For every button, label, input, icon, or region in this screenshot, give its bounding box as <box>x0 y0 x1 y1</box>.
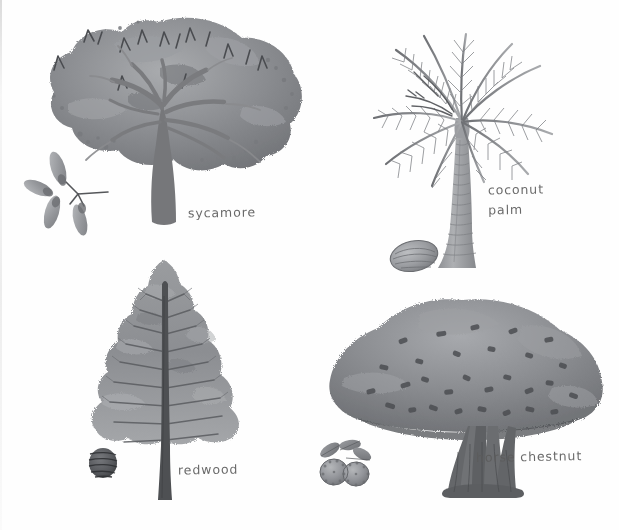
label-redwood: redwood <box>178 460 239 478</box>
conker-leaves <box>318 439 373 464</box>
specimen-coconut <box>385 232 445 278</box>
specimen-conker <box>312 436 382 494</box>
coconut-illustration <box>385 232 445 278</box>
conker-illustration <box>312 436 382 494</box>
label-coconut-palm: coconut palm <box>488 180 545 221</box>
label-sycamore: sycamore <box>188 203 256 221</box>
redwood-cone-illustration <box>82 442 126 484</box>
conker-nuts <box>320 459 369 486</box>
specimen-sycamore-seed <box>22 142 122 238</box>
specimen-redwood-cone <box>82 442 126 484</box>
illustration-plate: sycamore <box>0 0 619 530</box>
paper-edge <box>0 0 2 530</box>
label-horse-chestnut: horse chestnut <box>476 447 582 466</box>
samara-stems <box>66 182 108 206</box>
sycamore-samara-illustration <box>22 142 122 238</box>
